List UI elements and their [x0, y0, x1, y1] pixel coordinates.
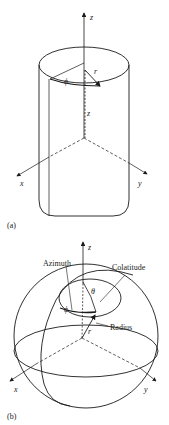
x-axis-label-a: x — [19, 179, 24, 188]
z-axis-label-a: z — [89, 13, 94, 22]
x-axis — [10, 364, 36, 381]
panel-label-b: (b) — [7, 412, 17, 421]
panel-label-a: (a) — [7, 221, 16, 230]
meridian — [41, 270, 133, 406]
theta-label: θ — [91, 287, 95, 296]
cylindrical-coordinates-figure — [17, 13, 147, 216]
z-label-a: z — [86, 109, 91, 118]
phi-label-b: ϕ — [64, 305, 68, 314]
y-axis — [129, 163, 147, 174]
r-vector — [85, 70, 100, 86]
y-axis-label-a: y — [137, 179, 142, 188]
radius-label: Radius — [110, 323, 132, 332]
y-axis — [140, 368, 156, 381]
azimuth-label: Azimuth — [43, 259, 71, 268]
sphere-equator — [14, 325, 158, 377]
r-label-b: r — [88, 327, 92, 336]
r-label-a: r — [94, 67, 98, 76]
x-axis-label-b: x — [13, 385, 18, 394]
sphere-outline — [14, 264, 158, 408]
coordinate-systems-diagram: z x y ϕ r z (a) z x y Azimuth Colatitu — [0, 0, 169, 425]
z-axis-label-b: z — [87, 243, 92, 252]
phi-label-a: ϕ — [64, 77, 68, 86]
y-axis-label-b: y — [143, 385, 148, 394]
colatitude-label: Colatitude — [112, 263, 146, 272]
x-axis — [17, 157, 49, 176]
